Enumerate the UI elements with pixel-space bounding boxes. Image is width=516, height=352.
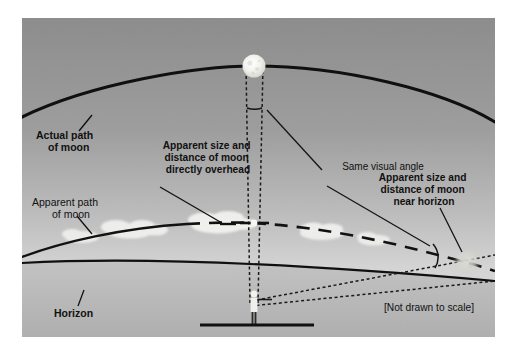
diagram-canvas: Actual path of moon Apparent path of moo… [22, 18, 495, 337]
label-not-to-scale: [Not drawn to scale] [384, 302, 474, 313]
moon-disc-top [243, 55, 266, 78]
diagram-plate: Actual path of moon Apparent path of moo… [22, 18, 495, 337]
label-same-visual-angle: Same visual angle [342, 161, 424, 172]
label-horizon: Horizon [54, 307, 93, 319]
label-overhead: Apparent size and distance of moon direc… [163, 140, 254, 175]
moon-illusion-figure: Actual path of moon Apparent path of moo… [0, 0, 516, 352]
moon-disc-horizon [456, 252, 478, 274]
moon-marker-overhead [251, 220, 258, 227]
